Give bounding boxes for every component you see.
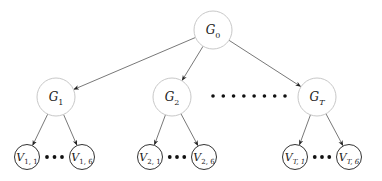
node-G2: G2 bbox=[153, 78, 191, 116]
node-VT_1: VT, 1 bbox=[283, 145, 308, 170]
diagram-canvas: G0G1V1, 1V1, 6G2V2, 1V2, 6GTVT, 1VT, 6 bbox=[0, 0, 382, 181]
node-V2_1: V2, 1 bbox=[138, 145, 163, 170]
group-ellipsis-dot bbox=[283, 94, 287, 98]
node-VT_6: VT, 6 bbox=[337, 145, 362, 170]
node-V1_1: V1, 1 bbox=[15, 145, 40, 170]
leaf-ellipsis-dot bbox=[327, 155, 331, 159]
node-GT: GT bbox=[298, 78, 336, 116]
leaf-ellipsis-dot bbox=[168, 155, 172, 159]
group-ellipsis-dot bbox=[211, 94, 215, 98]
node-G0: G0 bbox=[194, 11, 232, 49]
group-ellipsis-dot bbox=[221, 94, 225, 98]
leaf-ellipsis-dot bbox=[60, 155, 64, 159]
edge-GT-VT_6 bbox=[326, 114, 343, 146]
group-ellipsis-dot bbox=[273, 94, 277, 98]
group-ellipsis-dot bbox=[252, 94, 256, 98]
leaf-ellipsis-dot bbox=[53, 155, 57, 159]
node-V1_6: V1, 6 bbox=[70, 145, 95, 170]
group-ellipsis-dot bbox=[242, 94, 246, 98]
group-ellipsis-dot bbox=[263, 94, 267, 98]
nodes-layer: G0G1V1, 1V1, 6G2V2, 1V2, 6GTVT, 1VT, 6 bbox=[15, 11, 362, 170]
leaf-ellipsis-dot bbox=[182, 155, 186, 159]
edge-G1-V1_1 bbox=[33, 114, 48, 145]
leaf-ellipsis-dot bbox=[320, 155, 324, 159]
tree-diagram: G0G1V1, 1V1, 6G2V2, 1V2, 6GTVT, 1VT, 6 bbox=[0, 0, 382, 181]
edge-G1-V1_6 bbox=[64, 114, 77, 145]
leaf-ellipsis-dot bbox=[313, 155, 317, 159]
edge-G0-G2 bbox=[182, 46, 203, 80]
group-ellipsis-dot bbox=[232, 94, 236, 98]
edge-G0-GT bbox=[229, 40, 301, 86]
edge-GT-VT_1 bbox=[299, 115, 310, 145]
leaf-ellipsis-dot bbox=[175, 155, 179, 159]
node-V2_6: V2, 6 bbox=[192, 145, 217, 170]
edge-G2-V2_1 bbox=[154, 115, 165, 145]
node-G1: G1 bbox=[37, 78, 75, 116]
edge-G2-V2_6 bbox=[181, 114, 198, 146]
leaf-ellipsis-dot bbox=[45, 155, 49, 159]
